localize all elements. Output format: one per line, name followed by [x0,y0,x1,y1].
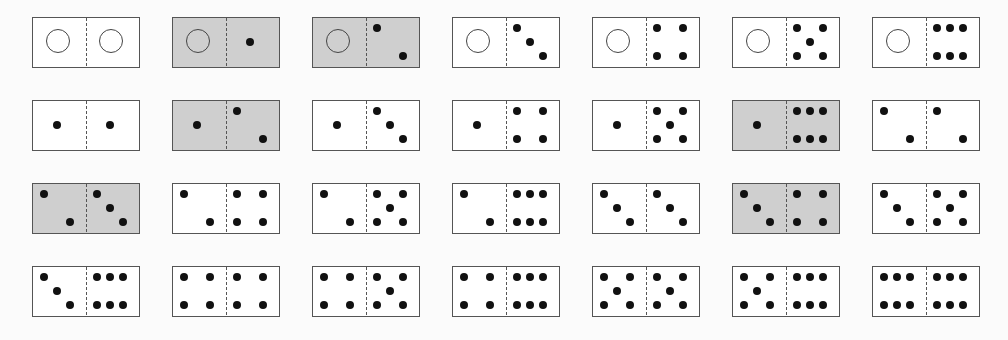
domino-6-6[interactable] [872,266,980,317]
domino-0-2[interactable] [312,17,420,68]
right-half-three [646,184,699,232]
domino-1-4[interactable] [452,100,560,151]
domino-5-6[interactable] [732,266,840,317]
domino-1-1[interactable] [32,100,140,151]
right-half-four [226,184,279,232]
pip-icon [626,273,634,281]
domino-5-5[interactable] [592,266,700,317]
pip-icon [653,24,661,32]
left-half-one [593,101,646,149]
domino-4-4[interactable] [172,266,280,317]
pip-icon [320,301,328,309]
pip-icon [946,301,954,309]
pip-icon [119,301,127,309]
pip-icon [653,107,661,115]
domino-1-5[interactable] [592,100,700,151]
domino-2-2[interactable] [872,100,980,151]
domino-1-6[interactable] [732,100,840,151]
pip-icon [53,121,61,129]
left-half-five [733,267,786,315]
pip-icon [819,301,827,309]
pip-icon [206,273,214,281]
pip-icon [933,52,941,60]
blank-circle-icon [606,29,630,53]
right-half-six [786,267,839,315]
domino-0-0[interactable] [32,17,140,68]
pip-icon [539,52,547,60]
right-half-one [86,101,139,149]
pip-icon [933,218,941,226]
pip-icon [906,273,914,281]
pip-icon [119,218,127,226]
pip-icon [679,301,687,309]
pip-icon [740,301,748,309]
pip-icon [40,190,48,198]
right-half-two [926,101,979,149]
pip-icon [106,301,114,309]
domino-0-4[interactable] [592,17,700,68]
pip-icon [399,135,407,143]
pip-icon [513,135,521,143]
left-half-zero [313,18,366,66]
left-half-zero [173,18,226,66]
domino-2-3[interactable] [32,183,140,234]
blank-circle-icon [99,29,123,53]
pip-icon [460,273,468,281]
pip-icon [180,190,188,198]
right-half-five [366,184,419,232]
pip-icon [946,273,954,281]
pip-icon [906,218,914,226]
domino-2-4[interactable] [172,183,280,234]
domino-2-5[interactable] [312,183,420,234]
domino-3-6[interactable] [32,266,140,317]
right-half-three [86,184,139,232]
left-half-six [873,267,926,315]
pip-icon [806,273,814,281]
domino-2-6[interactable] [452,183,560,234]
domino-0-3[interactable] [452,17,560,68]
pip-icon [933,273,941,281]
domino-0-1[interactable] [172,17,280,68]
pip-icon [819,190,827,198]
left-half-three [733,184,786,232]
left-half-two [453,184,506,232]
left-half-zero [593,18,646,66]
pip-icon [346,301,354,309]
pip-icon [259,190,267,198]
pip-icon [793,301,801,309]
left-half-one [33,101,86,149]
domino-3-3[interactable] [592,183,700,234]
pip-icon [819,273,827,281]
pip-icon [386,204,394,212]
domino-1-2[interactable] [172,100,280,151]
pip-icon [513,24,521,32]
domino-3-4[interactable] [732,183,840,234]
domino-3-5[interactable] [872,183,980,234]
pip-icon [653,273,661,281]
pip-icon [53,287,61,295]
pip-icon [933,24,941,32]
right-half-five [786,18,839,66]
pip-icon [373,273,381,281]
right-half-six [926,267,979,315]
right-half-six [86,267,139,315]
pip-icon [880,107,888,115]
pip-icon [613,287,621,295]
domino-0-5[interactable] [732,17,840,68]
pip-icon [766,218,774,226]
pip-icon [206,218,214,226]
domino-1-3[interactable] [312,100,420,151]
domino-4-5[interactable] [312,266,420,317]
pip-icon [653,52,661,60]
domino-4-6[interactable] [452,266,560,317]
pip-icon [753,287,761,295]
pip-icon [946,24,954,32]
pip-icon [399,218,407,226]
pip-icon [373,301,381,309]
pip-icon [399,273,407,281]
pip-icon [373,24,381,32]
right-half-six [786,101,839,149]
domino-0-6[interactable] [872,17,980,68]
pip-icon [740,190,748,198]
pip-icon [806,107,814,115]
